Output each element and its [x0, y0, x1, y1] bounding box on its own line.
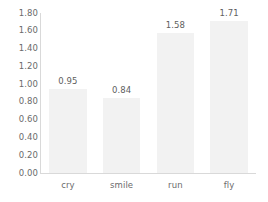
y-axis-tick-label: 0.60: [2, 115, 38, 124]
y-axis-tick-label: 1.60: [2, 26, 38, 35]
bar-value-label: 0.84: [97, 86, 147, 95]
y-axis-tick-label: 0.20: [2, 151, 38, 160]
bar-value-label: 0.95: [43, 77, 93, 86]
bar-value-label: 1.58: [151, 21, 201, 30]
bar: [157, 33, 195, 173]
bar: [49, 89, 87, 173]
y-axis-tick-label: 0.40: [2, 133, 38, 142]
bar-chart: 1.801.601.401.201.000.800.600.400.200.00…: [0, 0, 268, 202]
x-axis-category-label: fly: [202, 180, 256, 190]
y-axis-tick-label: 1.40: [2, 44, 38, 53]
x-axis-category-label: run: [149, 180, 203, 190]
y-axis-tick-label: 1.20: [2, 62, 38, 71]
plot-area: 0.950.841.581.71: [41, 13, 256, 173]
bar-value-label: 1.71: [204, 9, 254, 18]
y-axis-tick-label: 1.00: [2, 80, 38, 89]
bar: [210, 21, 248, 173]
x-axis-category-label: cry: [41, 180, 95, 190]
bar: [103, 98, 141, 173]
y-axis-tick-label: 1.80: [2, 9, 38, 18]
y-axis-tick-label: 0.80: [2, 97, 38, 106]
y-axis-tick-label: 0.00: [2, 169, 38, 178]
x-axis-line: [40, 173, 256, 174]
x-axis-category-label: smile: [95, 180, 149, 190]
y-axis-tick-labels: 1.801.601.401.201.000.800.600.400.200.00: [0, 0, 38, 202]
